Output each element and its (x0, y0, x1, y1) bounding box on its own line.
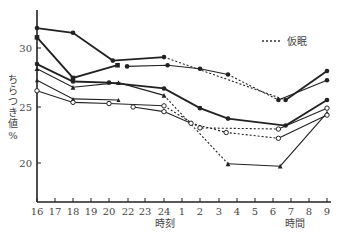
data-point-marker (162, 104, 166, 108)
svg-text:つ: つ (8, 96, 18, 107)
x-axis-title-clock-time: 時刻 (155, 217, 175, 229)
x-tick-label: 23 (139, 206, 152, 217)
x-tick-label: 24 (158, 206, 171, 217)
y-tick-label-30: 30 (19, 43, 32, 54)
x-tick-label: 5 (252, 206, 258, 217)
data-point-marker (111, 58, 116, 63)
x-ticks: 1617181920222324123456789 (31, 198, 331, 217)
data-point-marker (35, 66, 40, 71)
x-axis-title-hours: 時間 (285, 218, 305, 229)
data-point-marker (125, 64, 130, 69)
data-point-marker (35, 35, 40, 40)
data-point-marker (35, 26, 40, 31)
flicker-value-line-chart: 30 25 20 ち ら つ き 値 % 1617181920222324123… (0, 0, 342, 237)
data-point-marker (162, 109, 166, 113)
x-tick-label: 16 (31, 206, 44, 217)
data-point-marker (162, 55, 167, 60)
data-point-marker (276, 98, 281, 103)
data-point-marker (276, 136, 280, 140)
data-point-marker (325, 78, 330, 83)
data-point-marker (115, 63, 120, 68)
y-tick-label-25: 25 (19, 102, 32, 113)
data-point-marker (198, 126, 202, 130)
data-point-marker (189, 121, 193, 125)
x-tick-label: 18 (67, 206, 80, 217)
x-tick-label: 19 (85, 206, 98, 217)
data-point-marker (325, 69, 330, 74)
x-tick-label: 3 (216, 206, 222, 217)
x-tick-label: 7 (288, 206, 294, 217)
x-tick-label: 2 (197, 206, 203, 217)
data-point-marker (226, 72, 231, 77)
y-axis-unit: % (8, 130, 18, 141)
legend-label-nap: 仮眠 (287, 35, 307, 47)
legend: 仮眠 (262, 35, 307, 47)
x-tick-label: 6 (270, 206, 276, 217)
data-point-marker (35, 78, 39, 82)
x-tick-label: 1 (179, 206, 185, 217)
data-point-marker (35, 89, 39, 93)
x-tick-label: 8 (306, 206, 312, 217)
data-point-marker (224, 130, 228, 134)
data-point-marker (107, 101, 111, 105)
data-point-marker (162, 86, 167, 91)
data-point-marker (325, 113, 329, 117)
svg-text:ち: ち (8, 74, 18, 85)
data-point-marker (283, 98, 288, 103)
x-tick-label: 22 (122, 206, 135, 217)
data-point-marker (71, 79, 76, 84)
data-point-marker (71, 30, 76, 35)
data-point-marker (71, 100, 75, 104)
data-point-marker (325, 98, 330, 103)
data-point-marker (325, 106, 329, 110)
x-tick-label: 9 (324, 206, 330, 217)
svg-text:き: き (8, 107, 18, 118)
data-point-marker (198, 66, 203, 71)
y-tick-label-20: 20 (19, 158, 32, 169)
data-point-marker (226, 116, 231, 121)
svg-text:ら: ら (8, 85, 18, 96)
y-axis-title: ち ら つ き 値 % (8, 74, 18, 141)
data-point-marker (35, 62, 40, 67)
x-tick-label: 4 (234, 206, 240, 217)
data-point-marker (276, 127, 280, 131)
data-point-marker (198, 106, 203, 111)
svg-text:値: 値 (8, 117, 18, 129)
data-point-marker (131, 105, 135, 109)
data-point-marker (165, 63, 170, 68)
series-layer (35, 26, 330, 169)
x-tick-label: 17 (49, 206, 62, 217)
x-tick-label: 20 (103, 206, 116, 217)
